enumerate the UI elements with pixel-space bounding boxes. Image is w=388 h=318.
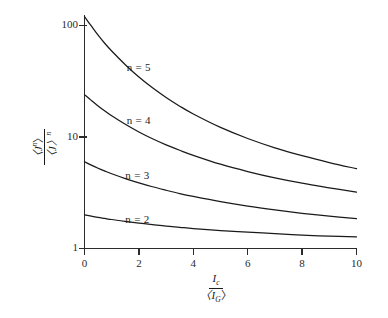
x-tick-label-2: 2 bbox=[119, 257, 159, 269]
y-axis-title-fraction: 〈Jn〉 〈J〉n bbox=[31, 129, 58, 166]
y-tick-label-1: 1 bbox=[40, 241, 78, 253]
x-axis-title-numerator: Ic bbox=[209, 272, 222, 289]
x-tick-label-6: 6 bbox=[228, 257, 268, 269]
curve-label-n4: n = 4 bbox=[127, 114, 151, 126]
x-axis-title-denominator-close: 〉 bbox=[221, 289, 232, 301]
x-tick-label-0: 0 bbox=[65, 257, 105, 269]
chart-curves bbox=[85, 17, 357, 237]
chart-axes bbox=[79, 15, 357, 255]
x-axis-title-fraction: Ic 〈IG〉 bbox=[197, 272, 234, 304]
x-tick-label-10: 10 bbox=[337, 257, 377, 269]
curve-label-n3: n = 3 bbox=[125, 169, 149, 181]
x-axis-title: Ic 〈IG〉 bbox=[186, 272, 246, 304]
curve-label-n2: n = 2 bbox=[125, 213, 149, 225]
curve-label-n5: n = 5 bbox=[127, 61, 151, 73]
chart-figure: 100 10 1 0 2 4 6 8 10 n = 5 n = 4 n = 3 … bbox=[0, 0, 388, 318]
x-axis-title-numerator-subscript: c bbox=[216, 278, 219, 287]
x-axis-title-denominator-text: 〈I bbox=[200, 289, 215, 301]
y-axis-title-denominator: 〈J〉n bbox=[45, 129, 58, 166]
y-axis-title-numerator-exponent: n bbox=[30, 143, 39, 147]
y-axis-title-numerator: 〈Jn〉 bbox=[31, 129, 45, 166]
x-tick-label-4: 4 bbox=[173, 257, 213, 269]
x-axis-title-denominator: 〈IG〉 bbox=[197, 289, 234, 305]
y-axis-title-denominator-exponent: n bbox=[44, 132, 53, 136]
y-axis-title-numerator-close: 〉 bbox=[31, 132, 43, 143]
y-axis-title-numerator-text: 〈J bbox=[31, 146, 43, 162]
y-tick-label-100: 100 bbox=[40, 18, 78, 30]
curve-series-5 bbox=[85, 17, 357, 169]
y-axis-title: 〈Jn〉 〈J〉n bbox=[9, 125, 79, 169]
y-axis-title-denominator-text: 〈J〉 bbox=[45, 135, 57, 162]
x-tick-label-8: 8 bbox=[282, 257, 322, 269]
